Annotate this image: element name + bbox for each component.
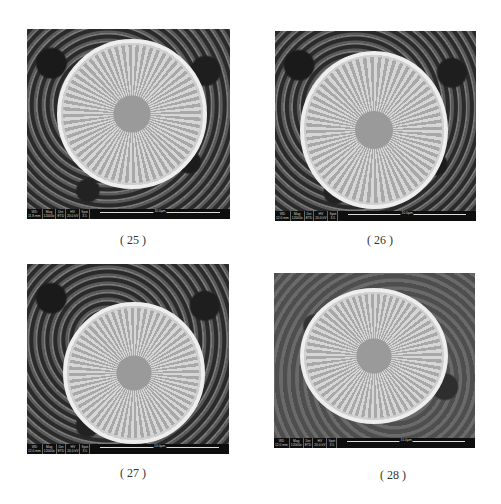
spot-value: 3.5 [81,449,88,453]
det-value: ETD [57,214,64,218]
spot-cell: Spot3.5 [80,444,90,454]
spot-value: 3.5 [328,443,335,447]
wd-cell: WD12.0 mm [274,438,290,448]
spot-value: 3.5 [81,214,88,218]
mag-value: 12000x [44,214,55,218]
wd-value: 12.0 mm [28,449,41,453]
mag-cell: Mag12000x [43,444,57,454]
diatom-valve [57,39,207,189]
scale-label: 10.0μm [401,211,414,215]
sem-image-28: WD12.0 mm Mag12000x DetETD HV20.0 kV Spo… [274,273,475,448]
mag-cell: Mag12000x [291,211,305,221]
wd-cell: WD12.0 mm [275,211,291,221]
spot-cell: Spot3.5 [328,211,338,221]
diatom-valve [300,51,448,209]
scale-bar: 10.0μm [338,211,476,221]
hv-value: 20.0 kV [67,214,78,218]
figure-caption-25: ( 25 ) [103,233,163,248]
hv-cell: HV20.0 kV [314,211,328,221]
det-cell: DetETD [305,211,315,221]
scale-bar: 10.0μm [337,438,475,448]
mag-value: 12000x [291,443,302,447]
hv-value: 20.0 kV [314,443,325,447]
mag-value: 12000x [292,216,303,220]
scale-bar: 10.0μm [90,444,229,454]
mag-value: 12000x [44,449,55,453]
sem-info-bar: WD11.8 mm Mag12000x DetETD HV20.0 kV Spo… [27,209,230,219]
spot-cell: Spot3.5 [327,438,337,448]
det-value: ETD [58,449,65,453]
spot-value: 3.5 [329,216,336,220]
scale-label: 10.0μm [153,444,166,448]
hv-cell: HV20.0 kV [66,444,80,454]
scale-label: 10.0μm [153,209,166,213]
diatom-valve [300,288,448,424]
sem-info-bar: WD12.0 mm Mag12000x DetETD HV20.0 kV Spo… [27,444,229,454]
wd-value: 12.0 mm [276,216,289,220]
hv-value: 20.0 kV [315,216,326,220]
sem-info-bar: WD12.0 mm Mag12000x DetETD HV20.0 kV Spo… [274,438,475,448]
scale-bar: 10.0μm [90,209,230,219]
mag-cell: Mag12000x [43,209,57,219]
sem-image-27: WD12.0 mm Mag12000x DetETD HV20.0 kV Spo… [27,264,229,454]
det-cell: DetETD [57,444,67,454]
det-cell: DetETD [304,438,314,448]
wd-value: 12.0 mm [275,443,288,447]
wd-cell: WD11.8 mm [27,209,43,219]
hv-value: 20.0 kV [67,449,78,453]
scale-label: 10.0μm [400,438,413,442]
mag-cell: Mag12000x [290,438,304,448]
wd-cell: WD12.0 mm [27,444,43,454]
figure-caption-26: ( 26 ) [350,233,410,248]
sem-image-25: WD11.8 mm Mag12000x DetETD HV20.0 kV Spo… [27,29,230,219]
det-value: ETD [306,216,313,220]
hv-cell: HV20.0 kV [313,438,327,448]
figure-caption-28: ( 28 ) [363,468,423,483]
hv-cell: HV20.0 kV [66,209,80,219]
sem-image-26: WD12.0 mm Mag12000x DetETD HV20.0 kV Spo… [275,31,476,221]
diatom-valve [63,302,205,444]
wd-value: 11.8 mm [28,214,41,218]
sem-info-bar: WD12.0 mm Mag12000x DetETD HV20.0 kV Spo… [275,211,476,221]
figure-caption-27: ( 27 ) [103,466,163,481]
det-value: ETD [305,443,312,447]
spot-cell: Spot3.5 [80,209,90,219]
det-cell: DetETD [56,209,66,219]
